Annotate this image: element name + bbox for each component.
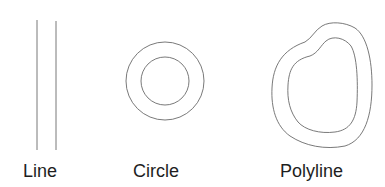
circle-offset-figure	[126, 42, 204, 120]
circle-outer	[126, 42, 204, 120]
circle-inner	[141, 57, 189, 105]
polyline-label: Polyline	[280, 160, 343, 182]
circle-label: Circle	[133, 160, 179, 182]
line-offset-figure	[37, 20, 56, 150]
polyline-offset-figure	[272, 23, 372, 148]
offset-shapes-diagram	[0, 0, 385, 187]
polyline-inner	[288, 38, 358, 133]
line-label: Line	[23, 160, 57, 182]
